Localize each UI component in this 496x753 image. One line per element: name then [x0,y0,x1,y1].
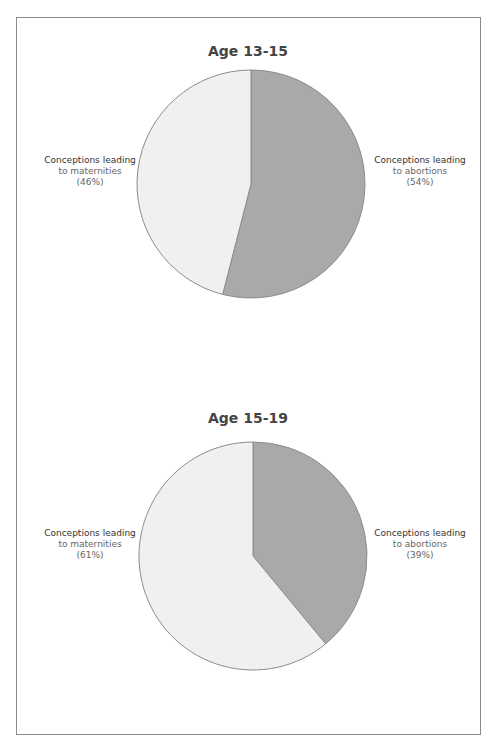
pie-age-15-19 [139,442,367,670]
pie-age-13-15 [137,70,365,298]
pie-charts [0,0,496,753]
